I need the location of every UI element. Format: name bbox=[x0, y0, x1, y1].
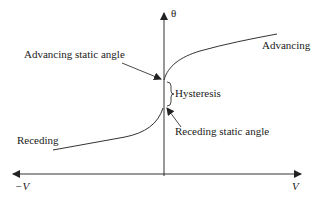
y-axis-label: θ bbox=[171, 8, 176, 19]
hysteresis-brace-icon bbox=[167, 82, 174, 106]
x-pos-label: V bbox=[292, 181, 299, 192]
advancing-label: Advancing bbox=[262, 40, 310, 51]
advancing-static-arrow bbox=[122, 63, 161, 79]
hysteresis-diagram: θ Advancing static angle Advancing Hyste… bbox=[0, 0, 320, 200]
receding-static-label: Receding static angle bbox=[175, 126, 269, 137]
receding-curve bbox=[53, 108, 163, 150]
advancing-static-label: Advancing static angle bbox=[24, 49, 125, 60]
advancing-curve bbox=[164, 34, 277, 80]
x-neg-label: −V bbox=[15, 181, 29, 192]
receding-label: Receding bbox=[17, 135, 59, 146]
hysteresis-label: Hysteresis bbox=[175, 88, 221, 99]
diagram-graphics bbox=[0, 0, 320, 200]
